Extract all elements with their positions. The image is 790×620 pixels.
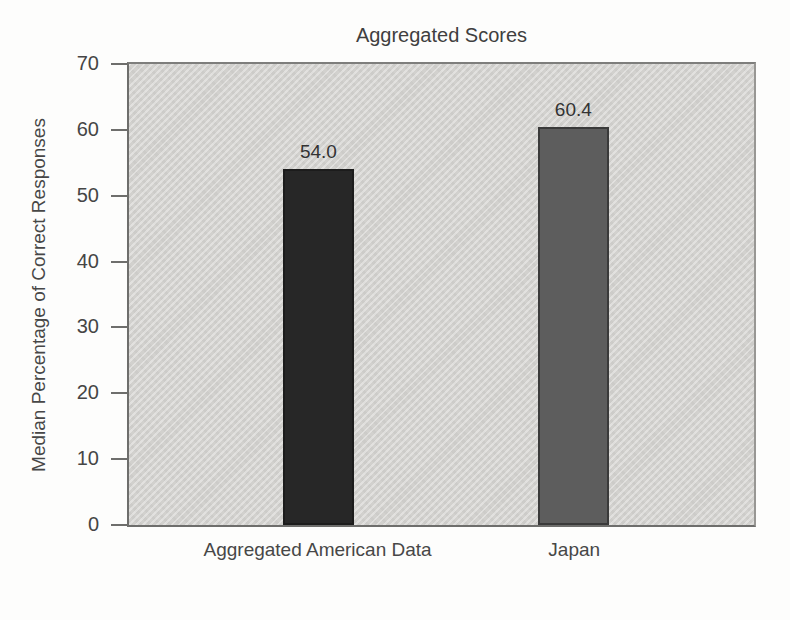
x-category-label: Aggregated American Data bbox=[203, 536, 433, 564]
y-tick-label: 30 bbox=[47, 316, 99, 336]
bar-value-label: 54.0 bbox=[268, 142, 368, 161]
y-tick-label: 70 bbox=[47, 53, 99, 73]
chart-title: Aggregated Scores bbox=[127, 24, 756, 47]
y-tick-label: 0 bbox=[47, 514, 99, 534]
bar-chart-figure: Aggregated Scores Median Percentage of C… bbox=[0, 0, 790, 620]
x-axis-labels: Aggregated American DataJapan bbox=[127, 536, 756, 606]
y-tick-mark bbox=[111, 458, 127, 460]
bar-japan bbox=[538, 127, 609, 525]
y-tick-label: 40 bbox=[47, 251, 99, 271]
plot-area: 010203040506070 54.060.4 bbox=[127, 62, 756, 527]
y-tick-label: 50 bbox=[47, 185, 99, 205]
bar-american bbox=[283, 169, 354, 525]
y-tick-mark bbox=[111, 63, 127, 65]
y-tick-mark bbox=[111, 261, 127, 263]
y-tick-mark bbox=[111, 392, 127, 394]
y-tick-mark bbox=[111, 326, 127, 328]
y-axis-title: Median Percentage of Correct Responses bbox=[28, 95, 52, 495]
y-tick-mark bbox=[111, 195, 127, 197]
y-tick-label: 10 bbox=[47, 448, 99, 468]
y-tick-label: 20 bbox=[47, 382, 99, 402]
y-tick-mark bbox=[111, 524, 127, 526]
bar-value-label: 60.4 bbox=[523, 100, 623, 119]
y-tick-label: 60 bbox=[47, 119, 99, 139]
y-tick-mark bbox=[111, 129, 127, 131]
x-category-label: Japan bbox=[459, 536, 689, 564]
